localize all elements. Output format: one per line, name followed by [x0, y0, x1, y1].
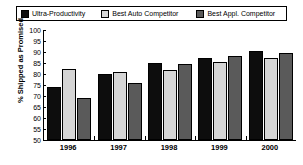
legend-item-best-appl-competitor: Best Appl. Competitor — [196, 7, 275, 20]
chart-legend: Ultra-Productivity Best Auto Competitor … — [16, 6, 287, 21]
y-axis-tick-label: 55 — [33, 126, 41, 133]
x-axis-tick-label: 2000 — [245, 143, 295, 157]
y-axis-tick-mark — [43, 52, 46, 53]
y-axis-tick-mark — [43, 63, 46, 64]
y-axis-tick-mark — [43, 74, 46, 75]
legend-label: Best Auto Competitor — [112, 10, 178, 18]
bar[interactable] — [249, 51, 263, 140]
bar[interactable] — [228, 56, 242, 140]
bar[interactable] — [264, 58, 278, 141]
bar[interactable] — [113, 72, 127, 140]
plot-area — [43, 30, 296, 141]
y-axis-tick-mark — [43, 140, 46, 141]
bar[interactable] — [77, 98, 91, 140]
y-axis-tick-mark — [43, 41, 46, 42]
x-axis-tick-label: 1999 — [194, 143, 244, 157]
y-axis-tick-label: 95 — [33, 38, 41, 45]
bar-group — [246, 30, 296, 140]
y-axis-tick-mark — [43, 107, 46, 108]
legend-swatch-icon — [196, 10, 204, 18]
bar[interactable] — [47, 87, 61, 140]
x-axis-tick-label: 1998 — [144, 143, 194, 157]
legend-label: Ultra-Productivity — [32, 10, 85, 18]
bar[interactable] — [163, 70, 177, 140]
y-axis-tick-mark — [43, 129, 46, 130]
bar-group — [145, 30, 195, 140]
bar-groups — [44, 30, 296, 140]
legend-swatch-icon — [101, 10, 109, 18]
bar[interactable] — [128, 83, 142, 140]
y-axis-tick-label: 100 — [29, 27, 41, 34]
y-axis-tick-mark — [43, 96, 46, 97]
legend-label: Best Appl. Competitor — [207, 10, 275, 18]
y-axis-tick-mark — [43, 30, 46, 31]
y-axis-tick-mark — [43, 118, 46, 119]
y-axis-tick-label: 65 — [33, 104, 41, 111]
y-axis-tick-label: 70 — [33, 93, 41, 100]
y-axis-tick-labels: 10095908580757065605550 — [18, 24, 41, 146]
legend-item-ultra-productivity: Ultra-Productivity — [21, 7, 85, 20]
y-axis-tick-label: 50 — [33, 137, 41, 144]
y-axis-tick-label: 75 — [33, 82, 41, 89]
x-axis-tick-label: 1996 — [43, 143, 93, 157]
bar[interactable] — [198, 58, 212, 141]
x-axis-tick-labels: 19961997199819992000 — [43, 143, 295, 157]
bar[interactable] — [178, 64, 192, 140]
bar-group — [44, 30, 94, 140]
chart-root: Ultra-Productivity Best Auto Competitor … — [0, 0, 303, 165]
y-axis-tick-label: 80 — [33, 71, 41, 78]
bar-group — [195, 30, 245, 140]
y-axis-tick-label: 60 — [33, 115, 41, 122]
legend-item-best-auto-competitor: Best Auto Competitor — [101, 7, 178, 20]
bar[interactable] — [98, 74, 112, 140]
bar[interactable] — [62, 69, 76, 141]
x-axis-tick-label: 1997 — [93, 143, 143, 157]
bar-group — [94, 30, 144, 140]
y-axis-tick-label: 90 — [33, 49, 41, 56]
bar[interactable] — [213, 62, 227, 140]
y-axis-tick-label: 85 — [33, 60, 41, 67]
y-axis-tick-mark — [43, 85, 46, 86]
bar[interactable] — [279, 53, 293, 140]
bar[interactable] — [148, 63, 162, 140]
